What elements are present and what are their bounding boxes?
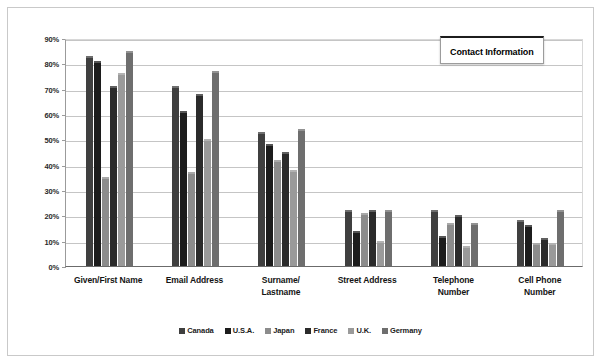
x-axis-category-line: Email Address bbox=[151, 274, 237, 286]
legend-swatch-icon bbox=[225, 328, 231, 334]
y-axis-tick-mark bbox=[62, 267, 66, 268]
legend-item[interactable]: Japan bbox=[265, 326, 294, 335]
x-axis-category-label: Email Address bbox=[151, 274, 237, 286]
legend-item-label: Canada bbox=[187, 326, 214, 335]
x-axis-category-label: Cell PhoneNumber bbox=[497, 274, 583, 298]
chart-title-box: Contact Information bbox=[440, 36, 544, 64]
x-axis-category-line: Telephone bbox=[410, 274, 496, 286]
legend-item[interactable]: Germany bbox=[382, 326, 422, 335]
bar[interactable] bbox=[298, 129, 305, 266]
bar[interactable] bbox=[172, 86, 179, 266]
bar-group bbox=[498, 40, 584, 266]
page-title: Contact Information bbox=[450, 47, 534, 57]
bar[interactable] bbox=[517, 220, 524, 266]
x-axis-category-line: Cell Phone bbox=[497, 274, 583, 286]
legend-item-label: U.S.A. bbox=[233, 326, 255, 335]
bar[interactable] bbox=[447, 223, 454, 266]
x-axis-category-line: Street Address bbox=[324, 274, 410, 286]
bar-group bbox=[152, 40, 238, 266]
bar[interactable] bbox=[541, 238, 548, 266]
bar[interactable] bbox=[180, 111, 187, 266]
chart-legend: CanadaU.S.A.JapanFranceU.K.Germany bbox=[8, 326, 593, 335]
x-axis-category-label: Given/First Name bbox=[65, 274, 151, 286]
bar[interactable] bbox=[258, 132, 265, 266]
y-axis: 90%80%70%60%50%40%30%20%10%0% bbox=[26, 39, 62, 267]
bar[interactable] bbox=[549, 243, 556, 266]
x-axis-category-line: Number bbox=[410, 286, 496, 298]
y-axis-tick-label: 80% bbox=[45, 60, 59, 69]
y-axis-tick-label: 60% bbox=[45, 111, 59, 120]
legend-item[interactable]: U.K. bbox=[348, 326, 371, 335]
x-axis-category-line: Surname/ bbox=[238, 274, 324, 286]
bar[interactable] bbox=[102, 177, 109, 266]
legend-swatch-icon bbox=[265, 328, 271, 334]
bar-group bbox=[239, 40, 325, 266]
bar[interactable] bbox=[377, 241, 384, 266]
x-axis-category-line: Number bbox=[497, 286, 583, 298]
legend-swatch-icon bbox=[382, 328, 388, 334]
x-axis-category-label: Surname/Lastname bbox=[238, 274, 324, 298]
bar[interactable] bbox=[463, 246, 470, 266]
bar[interactable] bbox=[455, 215, 462, 266]
bar[interactable] bbox=[353, 231, 360, 266]
x-axis-category-line: Given/First Name bbox=[65, 274, 151, 286]
y-axis-tick-label: 50% bbox=[45, 136, 59, 145]
bar[interactable] bbox=[266, 144, 273, 266]
bar[interactable] bbox=[525, 225, 532, 266]
x-axis-category-labels: Given/First NameEmail AddressSurname/Las… bbox=[65, 274, 583, 312]
x-axis-category-line: Lastname bbox=[238, 286, 324, 298]
legend-item-label: U.K. bbox=[356, 326, 371, 335]
bar[interactable] bbox=[282, 152, 289, 266]
legend-item-label: France bbox=[313, 326, 337, 335]
bar[interactable] bbox=[385, 210, 392, 266]
bar[interactable] bbox=[196, 94, 203, 266]
legend-swatch-icon bbox=[305, 328, 311, 334]
bar[interactable] bbox=[361, 213, 368, 266]
bar[interactable] bbox=[533, 243, 540, 266]
bar[interactable] bbox=[471, 223, 478, 266]
bar[interactable] bbox=[439, 236, 446, 266]
bar[interactable] bbox=[86, 56, 93, 266]
y-axis-tick-label: 20% bbox=[45, 212, 59, 221]
y-axis-tick-label: 0% bbox=[49, 263, 59, 272]
bar-series-layer bbox=[66, 40, 582, 266]
legend-item-label: Germany bbox=[390, 326, 422, 335]
legend-item[interactable]: U.S.A. bbox=[225, 326, 255, 335]
legend-swatch-icon bbox=[348, 328, 354, 334]
bar[interactable] bbox=[188, 172, 195, 266]
bar-group bbox=[66, 40, 152, 266]
bar-group bbox=[411, 40, 497, 266]
bar[interactable] bbox=[290, 170, 297, 266]
bar[interactable] bbox=[126, 51, 133, 266]
plot-area bbox=[65, 39, 583, 267]
legend-item[interactable]: Canada bbox=[179, 326, 214, 335]
chart-frame: 90%80%70%60%50%40%30%20%10%0% Given/Firs… bbox=[7, 7, 594, 356]
bar-group bbox=[325, 40, 411, 266]
legend-item-label: Japan bbox=[273, 326, 294, 335]
bar[interactable] bbox=[369, 210, 376, 266]
y-axis-tick-label: 10% bbox=[45, 237, 59, 246]
bar[interactable] bbox=[557, 210, 564, 266]
bar[interactable] bbox=[212, 71, 219, 266]
bar[interactable] bbox=[94, 61, 101, 266]
bar[interactable] bbox=[110, 86, 117, 266]
bar[interactable] bbox=[274, 160, 281, 266]
y-axis-tick-label: 40% bbox=[45, 161, 59, 170]
bar[interactable] bbox=[118, 73, 125, 266]
y-axis-tick-label: 70% bbox=[45, 85, 59, 94]
x-axis-category-label: TelephoneNumber bbox=[410, 274, 496, 298]
y-axis-tick-label: 90% bbox=[45, 35, 59, 44]
bar[interactable] bbox=[204, 139, 211, 266]
y-axis-tick-label: 30% bbox=[45, 187, 59, 196]
bar[interactable] bbox=[345, 210, 352, 266]
legend-swatch-icon bbox=[179, 328, 185, 334]
legend-item[interactable]: France bbox=[305, 326, 337, 335]
x-axis-category-label: Street Address bbox=[324, 274, 410, 286]
bar[interactable] bbox=[431, 210, 438, 266]
